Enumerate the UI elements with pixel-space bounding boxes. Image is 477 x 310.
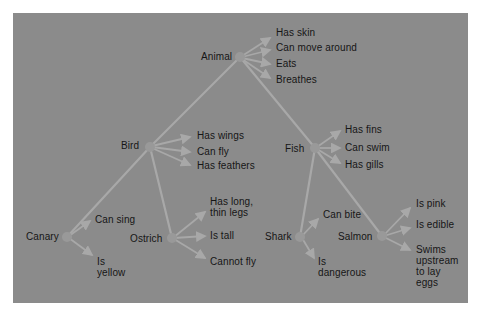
node-canary: [62, 232, 72, 242]
property-fish-has-gills: Has gills: [345, 159, 384, 170]
property-bird-has-feathers: Has feathers: [197, 160, 255, 171]
property-fish-can-swim: Can swim: [345, 142, 390, 153]
property-ostrich-is-tall: Is tall: [210, 230, 234, 241]
property-animal-eats: Eats: [276, 58, 296, 69]
node-label-salmon: Salmon: [338, 231, 373, 242]
property-salmon-is-edible: Is edible: [416, 219, 454, 230]
property-salmon-swims-upstream: Swims upstream to lay eggs: [416, 244, 459, 288]
property-shark-can-bite: Can bite: [323, 209, 361, 220]
link-animal-fish: [240, 57, 315, 148]
node-label-shark: Shark: [265, 231, 292, 242]
property-bird-has-wings: Has wings: [197, 130, 244, 141]
node-ostrich: [167, 233, 177, 243]
node-fish: [310, 143, 320, 153]
property-fish-has-fins: Has fins: [345, 124, 382, 135]
node-label-bird: Bird: [121, 140, 139, 151]
property-animal-can-move-around: Can move around: [276, 42, 357, 53]
node-bird: [145, 142, 155, 152]
node-animal: [235, 52, 245, 62]
node-label-animal: Animal: [201, 51, 232, 62]
property-ostrich-has-long-thin-legs: Has long, thin legs: [210, 196, 253, 218]
link-bird-ostrich: [150, 147, 172, 238]
property-shark-is-dangerous: Is dangerous: [318, 256, 366, 278]
property-animal-has-skin: Has skin: [276, 27, 315, 38]
node-shark: [295, 232, 305, 242]
property-salmon-is-pink: Is pink: [416, 198, 446, 209]
property-ostrich-cannot-fly: Cannot fly: [210, 256, 256, 267]
property-animal-breathes: Breathes: [276, 74, 317, 85]
property-canary-can-sing: Can sing: [95, 214, 135, 225]
property-bird-can-fly: Can fly: [197, 146, 229, 157]
property-canary-is-yellow: Is yellow: [97, 256, 125, 278]
node-label-fish: Fish: [285, 143, 304, 154]
node-label-canary: Canary: [26, 231, 59, 242]
node-salmon: [377, 231, 387, 241]
node-label-ostrich: Ostrich: [130, 233, 162, 244]
